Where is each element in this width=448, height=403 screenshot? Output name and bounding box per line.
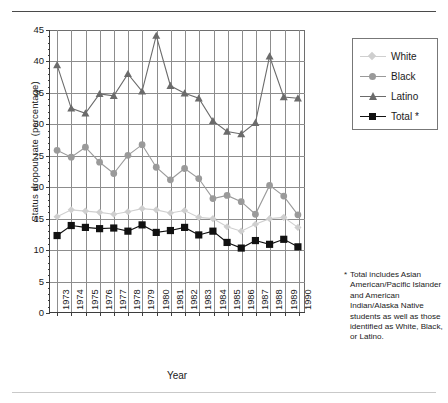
data-point-marker bbox=[53, 61, 61, 68]
data-point-marker bbox=[138, 205, 145, 212]
data-point-marker bbox=[167, 176, 174, 183]
legend-item-black[interactable]: Black bbox=[353, 66, 437, 86]
y-axis-tick-label: 15 bbox=[20, 213, 44, 224]
data-point-marker bbox=[209, 215, 216, 222]
y-axis-tick-label: 0 bbox=[20, 307, 44, 318]
data-point-marker bbox=[294, 224, 301, 231]
data-point-marker bbox=[266, 241, 273, 248]
data-point-marker bbox=[153, 229, 160, 236]
data-point-marker bbox=[167, 227, 174, 234]
data-point-marker bbox=[252, 221, 259, 228]
x-axis-tick-mark bbox=[214, 312, 215, 316]
data-point-marker bbox=[82, 208, 89, 215]
legend-label: Latino bbox=[391, 91, 418, 102]
x-axis-tick-mark bbox=[128, 312, 129, 316]
legend-symbol-diamond-icon bbox=[360, 50, 386, 62]
data-point-marker bbox=[294, 243, 301, 250]
y-axis-tick-mark bbox=[46, 313, 50, 314]
legend-item-total[interactable]: Total * bbox=[353, 106, 437, 126]
x-axis-tick-mark bbox=[256, 312, 257, 316]
data-point-marker bbox=[181, 89, 189, 96]
data-point-marker bbox=[68, 206, 75, 213]
data-point-marker bbox=[166, 82, 174, 89]
y-axis-tick-label: 45 bbox=[20, 24, 44, 35]
legend-symbol-circle-icon bbox=[360, 70, 386, 82]
data-point-marker bbox=[96, 225, 103, 232]
data-point-marker bbox=[96, 90, 104, 97]
x-axis-tick-mark bbox=[270, 312, 271, 316]
x-axis-tick-mark bbox=[199, 312, 200, 316]
data-point-marker bbox=[280, 93, 288, 100]
y-axis-tick-label: 25 bbox=[20, 150, 44, 161]
data-point-marker bbox=[195, 175, 202, 182]
data-point-marker bbox=[167, 209, 174, 216]
data-point-marker bbox=[266, 52, 274, 59]
line-chart-figure: Status dropout rate (percentage) 0510152… bbox=[0, 18, 448, 388]
legend-label: Total * bbox=[391, 111, 419, 122]
y-axis-tick-label: 20 bbox=[20, 181, 44, 192]
y-axis-tick-label: 5 bbox=[20, 276, 44, 287]
data-point-marker bbox=[251, 119, 259, 126]
data-point-marker bbox=[82, 144, 89, 151]
data-point-marker bbox=[195, 214, 202, 221]
data-point-marker bbox=[224, 192, 231, 199]
data-point-marker bbox=[67, 104, 75, 111]
x-axis-tick-mark bbox=[285, 312, 286, 316]
data-point-marker bbox=[124, 70, 132, 77]
legend-label: Black bbox=[391, 71, 415, 82]
x-axis-tick-mark bbox=[299, 312, 300, 316]
x-axis-tick-mark bbox=[242, 312, 243, 316]
footnote-text: Total includes Asian American/Pacific Is… bbox=[344, 270, 448, 343]
y-axis-tick-label: 10 bbox=[20, 244, 44, 255]
series-line bbox=[57, 145, 298, 215]
data-point-marker bbox=[252, 211, 259, 218]
series-line bbox=[57, 36, 298, 134]
x-axis-tick-mark bbox=[157, 312, 158, 316]
data-point-marker bbox=[195, 94, 203, 101]
legend-label: White bbox=[391, 51, 417, 62]
data-point-marker bbox=[110, 170, 117, 177]
data-point-marker bbox=[138, 221, 145, 228]
data-point-marker bbox=[295, 211, 302, 218]
chart-footnote: * Total includes Asian American/Pacific … bbox=[344, 270, 448, 343]
data-point-marker bbox=[252, 237, 259, 244]
plot-area: 051015202530354045 197319741975197619771… bbox=[49, 30, 305, 313]
data-point-marker bbox=[238, 244, 245, 251]
data-point-marker bbox=[181, 207, 188, 214]
legend-item-latino[interactable]: Latino bbox=[353, 86, 437, 106]
data-point-marker bbox=[124, 228, 131, 235]
data-point-marker bbox=[53, 232, 60, 239]
x-axis-tick-mark bbox=[86, 312, 87, 316]
data-series-layer bbox=[50, 30, 305, 312]
data-point-marker bbox=[125, 152, 132, 159]
data-point-marker bbox=[152, 32, 160, 39]
data-point-marker bbox=[124, 208, 131, 215]
series-black bbox=[54, 141, 302, 218]
series-latino bbox=[53, 32, 302, 138]
y-axis-tick-label: 40 bbox=[20, 55, 44, 66]
legend-symbol-triangle-icon bbox=[360, 90, 386, 102]
x-axis-tick-mark bbox=[114, 312, 115, 316]
bottom-divider-rule bbox=[12, 392, 436, 393]
data-point-marker bbox=[280, 236, 287, 243]
x-axis-tick-mark bbox=[228, 312, 229, 316]
x-axis-tick-mark bbox=[71, 312, 72, 316]
legend-item-white[interactable]: White bbox=[353, 46, 437, 66]
data-point-marker bbox=[82, 224, 89, 231]
data-point-marker bbox=[181, 165, 188, 172]
data-point-marker bbox=[210, 195, 217, 202]
x-axis-title: Year bbox=[49, 370, 305, 381]
data-point-marker bbox=[238, 198, 245, 205]
data-point-marker bbox=[223, 223, 230, 230]
x-axis-tick-mark bbox=[171, 312, 172, 316]
data-point-marker bbox=[223, 239, 230, 246]
data-point-marker bbox=[96, 159, 103, 166]
data-point-marker bbox=[110, 224, 117, 231]
data-point-marker bbox=[153, 206, 160, 213]
data-point-marker bbox=[266, 182, 273, 189]
series-white bbox=[53, 205, 301, 235]
data-point-marker bbox=[209, 117, 217, 124]
legend-symbol-square-icon bbox=[360, 110, 386, 122]
series-line bbox=[57, 225, 298, 248]
x-axis-tick-mark bbox=[57, 312, 58, 316]
